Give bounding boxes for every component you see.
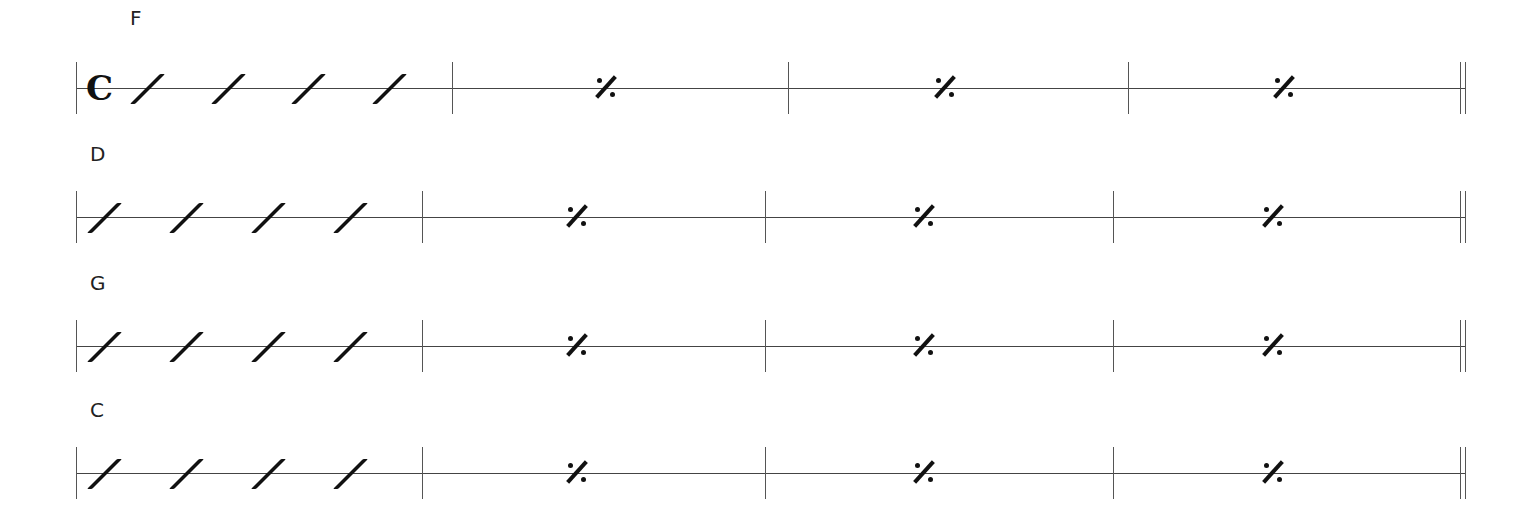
repeat-dot [928,477,933,482]
rhythm-slash-icon[interactable] [169,459,204,489]
start-barline [76,447,77,499]
measure-repeat-icon[interactable] [911,459,937,485]
repeat-dot [1277,477,1282,482]
repeat-dot [1264,463,1269,468]
barline[interactable] [422,447,423,499]
barline[interactable] [765,447,766,499]
rhythm-slash-icon[interactable] [333,459,368,489]
final-barline-thin [1460,447,1461,499]
barline[interactable] [1113,447,1114,499]
final-barline-thin [1465,447,1466,499]
chord-symbol[interactable]: C [90,400,104,420]
staff-system: C [0,0,1536,526]
measure-repeat-icon[interactable] [1260,459,1286,485]
repeat-dot [581,477,586,482]
measure-repeat-icon[interactable] [564,459,590,485]
rhythm-slash-icon[interactable] [87,459,122,489]
rhythm-slash-icon[interactable] [251,459,286,489]
repeat-dot [568,463,573,468]
repeat-dot [915,463,920,468]
staff-line [76,473,1466,474]
lead-sheet: FCDGC [0,0,1536,526]
